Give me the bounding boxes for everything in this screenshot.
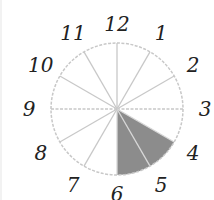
spoke-line	[60, 109, 117, 142]
shaded-sector	[117, 109, 174, 175]
hour-label-3: 3	[199, 97, 212, 121]
hour-label-9: 9	[23, 97, 36, 121]
spoke-line	[117, 52, 150, 109]
hour-label-11: 11	[60, 21, 85, 45]
hour-label-7: 7	[67, 173, 80, 197]
hour-label-2: 2	[186, 53, 200, 77]
hour-label-5: 5	[155, 173, 168, 197]
hour-label-12: 12	[104, 12, 129, 36]
hour-label-6: 6	[111, 182, 124, 200]
spoke-line	[84, 109, 117, 166]
spoke-line	[117, 76, 174, 109]
shaded-sector-path	[117, 109, 174, 175]
hour-label-1: 1	[155, 21, 168, 45]
hour-label-4: 4	[186, 141, 200, 165]
hour-label-10: 10	[28, 53, 54, 77]
spoke-line	[84, 52, 117, 109]
hour-label-8: 8	[34, 141, 47, 165]
spoke-line	[60, 76, 117, 109]
clock-diagram: 121234567891011	[0, 0, 214, 200]
